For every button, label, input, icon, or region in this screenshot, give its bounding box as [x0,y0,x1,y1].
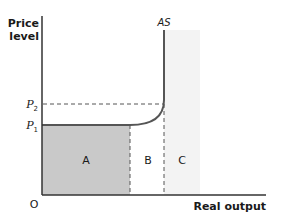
p1-subscript: 1 [34,126,38,134]
origin-label: O [30,198,39,211]
x-axis-title: Real output [193,200,266,213]
region-c-label: C [178,154,186,167]
y-axis-title-line1: Price [8,17,39,30]
aggregate-supply-diagram: Price level Real output O P2 P1 AS A B C [0,0,284,218]
as-curve-label: AS [156,17,171,28]
p1-label: P1 [25,119,38,134]
y-axis-title-line2: level [9,30,39,43]
p2-label: P2 [25,98,38,113]
as-curve [42,30,164,125]
p2-subscript: 2 [34,105,38,113]
region-b-label: B [144,154,152,167]
region-a-label: A [82,154,90,167]
region-c-shading [164,30,200,195]
